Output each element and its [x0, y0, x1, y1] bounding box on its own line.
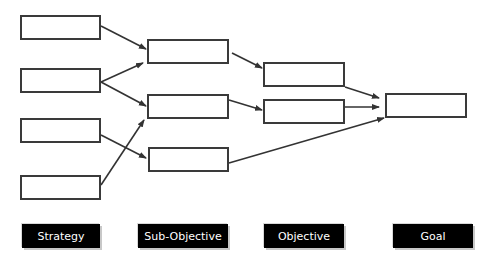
sub-objective-box-1	[147, 39, 229, 64]
sub-objective-label: Sub-Objective	[138, 224, 228, 248]
objective-box-1	[263, 62, 345, 87]
strategy-label: Strategy	[22, 224, 100, 248]
sub-objective-box-2	[147, 94, 229, 119]
objective-label: Objective	[264, 224, 344, 248]
strategy-box-1	[20, 15, 101, 40]
strategy-box-3	[20, 118, 101, 143]
goal-box	[385, 93, 467, 118]
objective-box-2	[263, 99, 345, 124]
goal-label: Goal	[393, 224, 473, 248]
strategy-box-4	[20, 175, 101, 200]
strategy-box-2	[20, 68, 101, 93]
sub-objective-box-3	[148, 147, 229, 172]
